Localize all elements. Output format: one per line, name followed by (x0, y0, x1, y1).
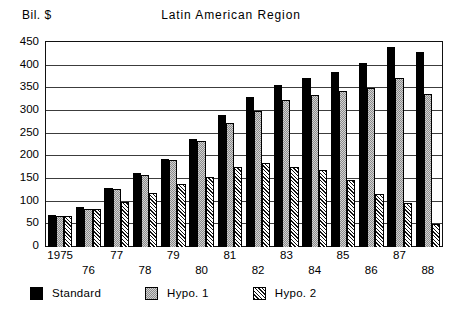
x-tick-83: 83 (272, 249, 300, 283)
chart-legend: StandardHypo. 1Hypo. 2 (30, 283, 430, 303)
bar-hypo2-77 (121, 202, 129, 247)
x-tick-label-82: 82 (252, 265, 265, 277)
bar-group-88 (414, 42, 442, 247)
bar-group-87 (385, 42, 413, 247)
legend-label-hypo2: Hypo. 2 (275, 287, 317, 299)
bar-standard-86 (359, 63, 367, 247)
bar-hypo1-76 (84, 209, 92, 247)
y-tick-label-200: 200 (20, 149, 39, 161)
x-tick-84: 84 (301, 249, 329, 283)
y-tick-label-250: 250 (20, 127, 39, 139)
bar-hypo1-86 (367, 88, 375, 247)
y-tick-label-0: 0 (33, 240, 39, 252)
bar-hypo1-82 (254, 111, 262, 247)
bar-hypo1-81 (226, 123, 234, 248)
bar-group-79 (159, 42, 187, 247)
x-tick-88: 88 (414, 249, 442, 283)
x-tick-80: 80 (187, 249, 215, 283)
bar-hypo1-77 (113, 189, 121, 247)
bar-standard-77 (104, 188, 112, 247)
x-tick-76: 76 (74, 249, 102, 283)
bar-hypo1-85 (339, 91, 347, 247)
bar-hypo1-80 (197, 141, 205, 247)
bar-hypo1-1975 (56, 216, 64, 247)
bar-hypo2-76 (93, 209, 101, 247)
x-tick-85: 85 (329, 249, 357, 283)
chart-figure: Bil. $ Latin American Region 05010015020… (0, 0, 462, 311)
y-tick-label-400: 400 (20, 59, 39, 71)
bar-hypo2-85 (347, 180, 355, 247)
bar-hypo1-83 (282, 100, 290, 247)
x-tick-label-87: 87 (393, 250, 406, 262)
bar-group-86 (357, 42, 385, 247)
x-tick-label-1975: 1975 (47, 250, 73, 262)
x-tick-86: 86 (357, 249, 385, 283)
x-tick-77: 77 (103, 249, 131, 283)
bar-standard-87 (387, 47, 395, 247)
x-axis: 197576777879808182838485868788 (46, 249, 442, 283)
legend-swatch-standard-icon (30, 287, 43, 300)
legend-swatch-hypo2-icon (253, 287, 266, 300)
bar-hypo1-87 (395, 78, 403, 247)
chart-title: Latin American Region (0, 8, 462, 22)
bar-group-85 (329, 42, 357, 247)
bar-group-1975 (46, 42, 74, 247)
x-tick-label-84: 84 (308, 265, 321, 277)
bar-hypo2-87 (404, 203, 412, 247)
bar-hypo2-80 (206, 177, 214, 247)
x-tick-1975: 1975 (46, 249, 74, 283)
bar-hypo2-88 (432, 224, 440, 247)
bar-group-76 (74, 42, 102, 247)
y-tick-label-300: 300 (20, 104, 39, 116)
bar-standard-76 (76, 207, 84, 247)
bar-standard-85 (331, 72, 339, 247)
bar-hypo2-81 (234, 167, 242, 247)
bar-standard-83 (274, 85, 282, 247)
x-tick-79: 79 (159, 249, 187, 283)
bar-standard-81 (218, 115, 226, 247)
bar-hypo2-78 (149, 193, 157, 247)
x-tick-label-86: 86 (365, 265, 378, 277)
bar-group-81 (216, 42, 244, 247)
bar-standard-79 (161, 159, 169, 247)
bar-hypo2-86 (375, 194, 383, 247)
bar-group-77 (103, 42, 131, 247)
bar-group-84 (301, 42, 329, 247)
legend-item-standard: Standard (30, 287, 101, 300)
bar-group-78 (131, 42, 159, 247)
x-tick-label-77: 77 (110, 250, 123, 262)
bar-hypo2-82 (262, 163, 270, 247)
x-tick-label-83: 83 (280, 250, 293, 262)
bar-standard-80 (189, 139, 197, 247)
bar-standard-1975 (48, 215, 56, 247)
x-tick-label-78: 78 (139, 265, 152, 277)
bar-hypo2-84 (319, 170, 327, 247)
legend-label-hypo1: Hypo. 1 (167, 287, 209, 299)
legend-label-standard: Standard (52, 287, 101, 299)
x-tick-label-80: 80 (195, 265, 208, 277)
y-tick-label-150: 150 (20, 172, 39, 184)
y-axis: 050100150200250300350400450 (0, 33, 45, 255)
x-tick-label-88: 88 (421, 265, 434, 277)
bar-groups (46, 42, 442, 247)
bar-hypo1-88 (424, 94, 432, 247)
y-tick-label-100: 100 (20, 195, 39, 207)
bar-group-83 (272, 42, 300, 247)
bar-group-82 (244, 42, 272, 247)
x-tick-82: 82 (244, 249, 272, 283)
x-tick-label-85: 85 (337, 250, 350, 262)
legend-item-hypo1: Hypo. 1 (145, 287, 209, 300)
bar-hypo2-1975 (64, 216, 72, 247)
bar-hypo2-83 (290, 167, 298, 247)
x-tick-78: 78 (131, 249, 159, 283)
bar-standard-78 (133, 173, 141, 247)
y-tick-label-50: 50 (26, 217, 39, 229)
x-tick-81: 81 (216, 249, 244, 283)
bar-hypo1-78 (141, 175, 149, 247)
legend-item-hypo2: Hypo. 2 (253, 287, 317, 300)
x-tick-87: 87 (385, 249, 413, 283)
y-tick-label-350: 350 (20, 81, 39, 93)
legend-swatch-hypo1-icon (145, 287, 158, 300)
x-tick-label-81: 81 (223, 250, 236, 262)
bar-standard-84 (302, 78, 310, 247)
